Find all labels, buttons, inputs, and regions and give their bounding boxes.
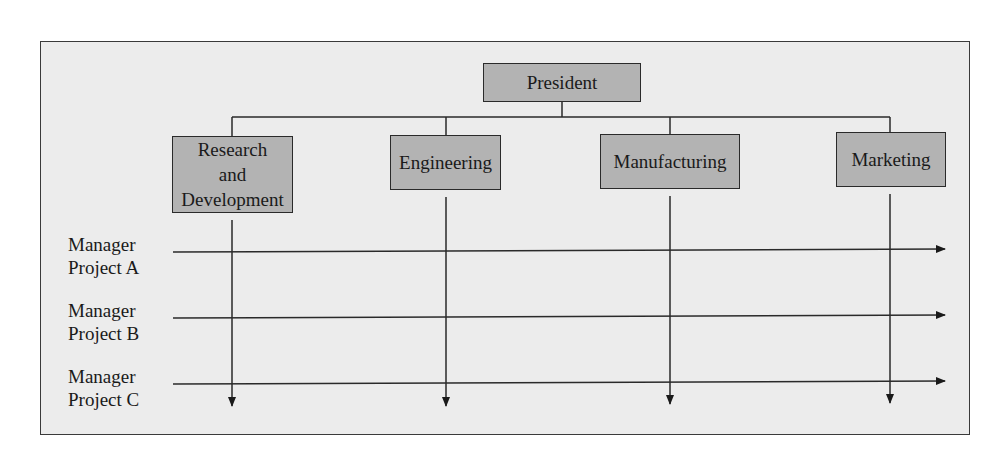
manager-b-line1: Manager xyxy=(68,299,139,322)
manager-c-line1: Manager xyxy=(68,365,139,388)
department-box-rnd: Research and Development xyxy=(172,136,293,213)
department-box-marketing: Marketing xyxy=(836,132,946,187)
arrow-project-c xyxy=(173,381,945,384)
manager-a-line1: Manager xyxy=(68,233,139,256)
manager-a-line2: Project A xyxy=(68,256,139,279)
rnd-label-line3: Development xyxy=(181,187,283,212)
department-box-manufacturing: Manufacturing xyxy=(600,134,740,189)
project-manager-b: Manager Project B xyxy=(68,299,139,345)
president-box: President xyxy=(483,63,641,102)
president-label: President xyxy=(527,70,598,95)
engineering-label: Engineering xyxy=(399,150,492,175)
arrow-project-a xyxy=(173,249,945,252)
manufacturing-label: Manufacturing xyxy=(614,149,727,174)
manager-b-line2: Project B xyxy=(68,322,139,345)
arrow-project-b xyxy=(173,315,945,318)
rnd-label-line2: and xyxy=(219,162,246,187)
manager-c-line2: Project C xyxy=(68,388,139,411)
project-manager-a: Manager Project A xyxy=(68,233,139,279)
marketing-label: Marketing xyxy=(851,147,930,172)
project-manager-c: Manager Project C xyxy=(68,365,139,411)
department-box-engineering: Engineering xyxy=(390,135,501,190)
rnd-label-line1: Research xyxy=(198,137,268,162)
